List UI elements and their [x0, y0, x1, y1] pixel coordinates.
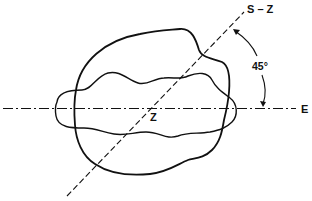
- label-angle: 45°: [252, 60, 268, 72]
- label-e: E: [301, 103, 308, 115]
- label-s-z: S – Z: [247, 3, 274, 15]
- angle-arrow-upper: [235, 31, 257, 56]
- inner-contour: [55, 72, 236, 137]
- radiation-pattern-diagram: S – Z 45° E Z: [0, 0, 312, 201]
- angle-arrow-lower: [262, 75, 265, 104]
- diagonal-axis-s-z: [67, 12, 244, 196]
- arrowhead-down-icon: [260, 101, 266, 107]
- label-center-z: Z: [150, 111, 157, 123]
